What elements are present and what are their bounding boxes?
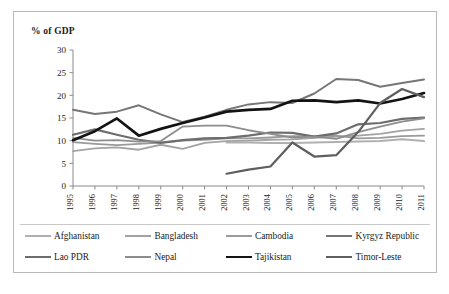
y-tick-label: 25 (57, 68, 67, 78)
legend-item-timor-leste[interactable]: Timor-Leste (321, 252, 430, 262)
x-tick-label: 2000 (176, 194, 185, 211)
legend-item-tajikistan[interactable]: Tajikistan (221, 252, 322, 262)
legend-swatch-icon (326, 235, 352, 237)
legend-item-label: Kyrgyz Republic (355, 231, 419, 241)
legend-item-label: Afghanistan (54, 231, 99, 241)
legend-item-label: Cambodia (255, 231, 293, 241)
legend-item-label: Timor-Leste (355, 252, 401, 262)
chart-figure: % of GDP 0510152025301995199619971998199… (13, 11, 437, 273)
x-tick-label: 1996 (88, 194, 97, 211)
legend-swatch-icon (125, 235, 151, 237)
legend-swatch-icon (326, 256, 352, 258)
legend-item-bangladesh[interactable]: Bangladesh (120, 231, 220, 241)
chart-legend: AfghanistanBangladeshCambodiaKyrgyz Repu… (20, 224, 430, 268)
y-tick-label: 10 (57, 136, 67, 146)
y-tick-label: 20 (57, 91, 67, 101)
legend-swatch-icon (25, 235, 51, 237)
x-tick-label: 2003 (242, 194, 251, 211)
x-tick-label: 1998 (132, 194, 141, 211)
line-chart-plot: 0510152025301995199619971998199920002001… (14, 12, 438, 224)
legend-item-label: Bangladesh (154, 231, 197, 241)
legend-item-label: Nepal (154, 252, 176, 262)
legend-item-afghanistan[interactable]: Afghanistan (20, 231, 120, 241)
legend-swatch-icon (25, 256, 51, 258)
x-tick-label: 2002 (220, 194, 229, 211)
x-tick-label: 2001 (198, 194, 207, 211)
y-tick-label: 5 (62, 159, 67, 169)
series-line-tajikistan (73, 93, 424, 140)
y-tick-label: 15 (57, 113, 67, 123)
legend-item-lao-pdr[interactable]: Lao PDR (20, 252, 120, 262)
legend-item-kyrgyz-republic[interactable]: Kyrgyz Republic (321, 231, 430, 241)
x-tick-label: 1999 (154, 194, 163, 211)
legend-item-nepal[interactable]: Nepal (120, 252, 220, 262)
x-tick-label: 2008 (351, 194, 360, 211)
legend-item-label: Tajikistan (255, 252, 292, 262)
legend-swatch-icon (226, 235, 252, 237)
legend-swatch-icon (226, 256, 252, 258)
x-tick-label: 1997 (110, 194, 119, 211)
y-tick-label: 0 (62, 181, 67, 191)
legend-item-label: Lao PDR (54, 252, 89, 262)
x-tick-label: 2010 (395, 194, 404, 211)
x-tick-label: 2009 (373, 194, 382, 211)
legend-item-cambodia[interactable]: Cambodia (221, 231, 322, 241)
x-tick-label: 2006 (307, 194, 316, 211)
x-tick-label: 1995 (66, 194, 75, 211)
x-tick-label: 2004 (263, 193, 272, 211)
y-tick-label: 30 (57, 45, 67, 55)
legend-swatch-icon (125, 256, 151, 258)
x-tick-label: 2011 (417, 194, 426, 210)
x-tick-label: 2005 (285, 194, 294, 211)
x-tick-label: 2007 (329, 194, 338, 211)
